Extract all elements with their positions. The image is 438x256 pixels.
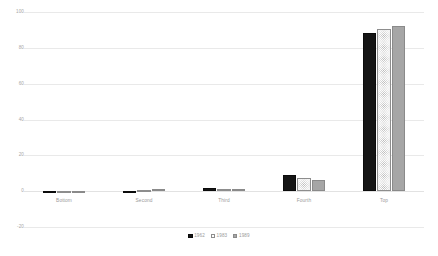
bar-third-1962[interactable] [203,188,217,192]
bar-bottom-1962[interactable] [43,191,57,193]
bar-group [203,12,246,227]
gridline [24,227,424,228]
bar-fourth-1983[interactable] [297,178,311,192]
y-axis: 100806040200-20 [0,12,24,227]
bar-third-1983[interactable] [217,189,231,191]
bar-top-1983[interactable] [377,29,391,191]
y-axis-tick-label: 100 [2,10,24,15]
bar-group [283,12,326,227]
bar-second-1983[interactable] [137,190,151,192]
bar-top-1962[interactable] [363,33,377,192]
bar-group [123,12,166,227]
legend-item-label: 1983 [217,234,228,239]
legend-item-label: 1989 [239,234,250,239]
bar-second-1962[interactable] [123,191,137,193]
x-axis-category-label: Second [104,199,184,204]
x-axis-category-label: Top [344,199,424,204]
legend-item-label: 1962 [194,234,205,239]
bar-second-1989[interactable] [152,189,166,191]
y-axis-tick-label: 40 [2,117,24,122]
y-axis-tick-label: -20 [2,225,24,230]
bar-fourth-1989[interactable] [312,180,326,192]
legend-item[interactable]: 1962 [188,234,204,239]
x-axis-category-label: Bottom [24,199,104,204]
legend-item[interactable]: 1989 [233,234,249,239]
bar-fourth-1962[interactable] [283,175,297,191]
legend-swatch-icon [211,234,215,238]
bar-chart: 100806040200-20 BottomSecondThirdFourthT… [0,0,438,256]
bar-group [43,12,86,227]
y-axis-tick-label: 80 [2,46,24,51]
legend-swatch-icon [233,234,237,238]
legend-swatch-icon [188,234,192,238]
y-axis-tick-label: 0 [2,189,24,194]
bar-bottom-1989[interactable] [72,191,86,193]
bar-third-1989[interactable] [232,189,246,191]
y-axis-tick-label: 60 [2,81,24,86]
bar-group [363,12,406,227]
x-axis-category-label: Fourth [264,199,344,204]
legend-item[interactable]: 1983 [211,234,227,239]
plot-area: BottomSecondThirdFourthTop [24,12,424,227]
x-axis-category-label: Third [184,199,264,204]
y-axis-tick-label: 20 [2,153,24,158]
bar-top-1989[interactable] [392,26,406,191]
bar-bottom-1983[interactable] [57,191,71,193]
chart-legend: 196219831989 [0,234,438,239]
